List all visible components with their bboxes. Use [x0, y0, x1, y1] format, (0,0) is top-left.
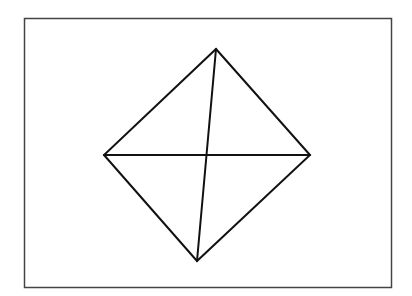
outer-frame — [25, 19, 392, 288]
diagram-canvas — [0, 0, 412, 296]
